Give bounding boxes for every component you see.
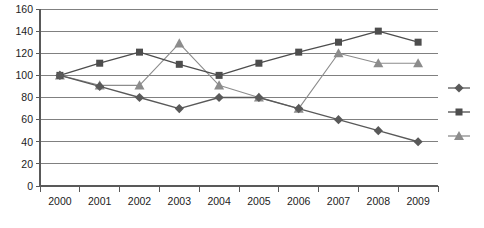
y-tick-label: 120 xyxy=(15,47,33,59)
x-tick-label: 2005 xyxy=(247,195,271,207)
x-tick-label: 2008 xyxy=(367,195,391,207)
y-tick-label: 100 xyxy=(15,69,33,81)
data-point-diamond xyxy=(215,93,224,102)
legend-marker-diamond xyxy=(454,83,463,92)
legend-item-square[interactable] xyxy=(448,109,470,116)
x-tick-label: 2001 xyxy=(88,195,112,207)
legend-marker-square xyxy=(456,109,463,116)
legend-item-diamond[interactable] xyxy=(448,83,470,92)
data-point-diamond xyxy=(374,126,383,135)
x-tick-label: 2004 xyxy=(207,195,231,207)
x-axis-ticks-group: 2000200120022003200420052006200720082009 xyxy=(40,186,438,207)
data-point-square xyxy=(375,28,382,35)
data-point-square xyxy=(176,61,183,68)
y-tick-label: 160 xyxy=(15,3,33,15)
data-point-square xyxy=(136,49,143,56)
x-tick-label: 2006 xyxy=(287,195,311,207)
y-tick-label: 80 xyxy=(21,91,33,103)
legend-item-triangle[interactable] xyxy=(448,131,470,140)
data-point-diamond xyxy=(334,115,343,124)
line-chart: 0204060801001201401602000200120022003200… xyxy=(0,0,484,228)
y-tick-label: 140 xyxy=(15,25,33,37)
data-point-square xyxy=(255,60,262,67)
x-tick-label: 2009 xyxy=(406,195,430,207)
x-tick-label: 2007 xyxy=(327,195,351,207)
y-tick-label: 0 xyxy=(27,180,33,192)
x-tick-label: 2000 xyxy=(48,195,72,207)
chart-container: 0204060801001201401602000200120022003200… xyxy=(0,0,484,228)
data-point-square xyxy=(415,39,422,46)
data-point-diamond xyxy=(135,93,144,102)
x-tick-label: 2003 xyxy=(168,195,192,207)
data-point-square xyxy=(96,60,103,67)
data-point-square xyxy=(216,72,223,79)
data-point-diamond xyxy=(95,82,104,91)
data-point-square xyxy=(295,49,302,56)
data-point-diamond xyxy=(175,104,184,113)
series-diamond xyxy=(55,71,422,147)
y-tick-label: 20 xyxy=(21,158,33,170)
data-point-diamond xyxy=(414,137,423,146)
x-tick-label: 2002 xyxy=(128,195,152,207)
legend xyxy=(448,83,470,140)
y-tick-label: 40 xyxy=(21,136,33,148)
data-point-square xyxy=(335,39,342,46)
y-tick-label: 60 xyxy=(21,113,33,125)
data-point-triangle xyxy=(174,38,184,47)
